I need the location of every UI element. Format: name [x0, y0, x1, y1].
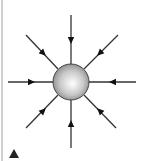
arrowhead-icon [68, 120, 74, 127]
negative-charge-sphere [53, 64, 89, 100]
field-diagram [0, 0, 145, 161]
arrowhead-icon [68, 37, 74, 44]
arrowhead-icon [109, 79, 116, 85]
left-edge-divider [1, 0, 3, 161]
field-lines-svg [0, 0, 145, 161]
arrowhead-icon [28, 79, 35, 85]
triangle-up-icon [9, 149, 19, 158]
